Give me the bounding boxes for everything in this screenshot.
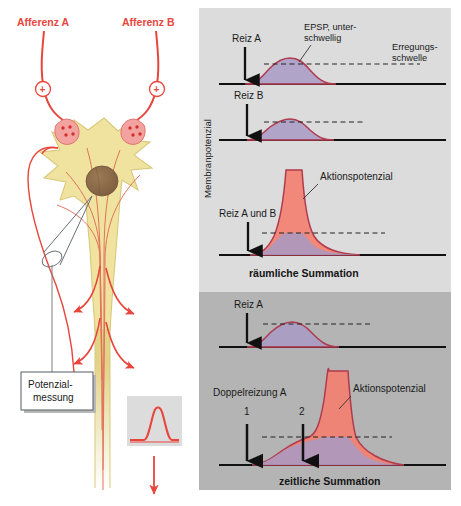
potential-measurement-line2: messung [33, 392, 74, 403]
vesicle [71, 132, 74, 135]
stimulus-marker-1: 1 [244, 406, 250, 417]
spike-label: Aktionspotenzial [353, 383, 426, 394]
potential-measurement-line1: Potenzial- [28, 379, 72, 390]
vesicle [61, 126, 64, 129]
vesicle [131, 133, 134, 136]
vesicle [128, 126, 131, 129]
synaptic-bouton-a [55, 119, 79, 144]
vesicle [64, 133, 67, 136]
stimulus-label: Reiz A [232, 33, 261, 44]
action-potential-inset [127, 396, 182, 446]
stimulus-label: Reiz A [234, 299, 263, 310]
spatial-summation-caption: räumliche Summation [249, 267, 359, 279]
synapse-sign-group-a: + [36, 82, 51, 97]
stimulus-label: Doppelreizung A [213, 387, 287, 398]
bouton-b-body [121, 119, 145, 144]
afferent-b-label: Afferenz B [122, 16, 175, 28]
threshold-label-line1: Erregungs- [392, 42, 437, 52]
temporal-summation-caption: zeitliche Summation [279, 475, 381, 487]
synapse-sign-b-label: + [154, 84, 160, 95]
epsp-annotation-line2: schwellig [304, 33, 341, 43]
stimulus-label: Reiz A und B [219, 208, 277, 219]
label-box [21, 372, 93, 410]
figure-root: Membranpotenzial Reiz A EPSP, unter- sch… [0, 0, 461, 506]
right-panel-group: Membranpotenzial Reiz A EPSP, unter- sch… [199, 8, 451, 490]
nucleus [86, 166, 118, 196]
stimulus-marker-2: 2 [299, 406, 305, 417]
synapse-sign-a-label: + [40, 84, 46, 95]
threshold-label-line2: schwelle [392, 53, 427, 63]
synaptic-bouton-b [121, 119, 145, 144]
spike-label: Aktionspotenzial [320, 171, 393, 182]
y-axis-label: Membranpotenzial [202, 119, 213, 198]
vesicle [68, 125, 71, 128]
bouton-a-body [55, 119, 79, 144]
epsp-annotation-line1: EPSP, unter- [304, 22, 356, 32]
stimulus-label: Reiz B [234, 90, 264, 101]
inset-background [127, 396, 182, 446]
vesicle [135, 125, 138, 128]
vesicle [138, 132, 141, 135]
synapse-sign-group-b: + [150, 82, 165, 97]
afferent-a-label: Afferenz A [17, 16, 70, 28]
potential-measurement-box: Potenzial- messung [21, 372, 96, 413]
